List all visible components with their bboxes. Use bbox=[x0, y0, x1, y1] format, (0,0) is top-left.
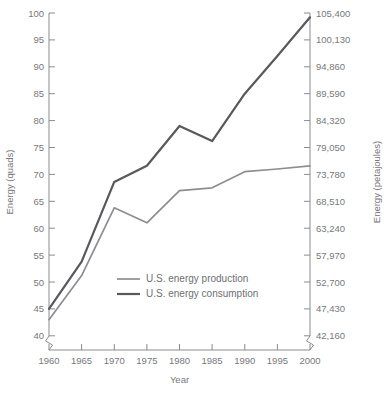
x-tick-label: 1985 bbox=[202, 355, 223, 366]
y-tick-label-left: 55 bbox=[33, 250, 44, 261]
y-tick-label-left: 95 bbox=[33, 34, 44, 45]
y-tick-label-left: 60 bbox=[33, 223, 44, 234]
y-axis-title-left: Energy (quads) bbox=[4, 150, 15, 215]
y-tick-label-left: 75 bbox=[33, 142, 44, 153]
y-tick-label-left: 85 bbox=[33, 88, 44, 99]
x-tick-label: 1965 bbox=[71, 355, 92, 366]
y-tick-label-right: 84,320 bbox=[316, 115, 345, 126]
legend: U.S. energy production U.S. energy consu… bbox=[117, 273, 258, 299]
y-tick-label-right: 73,780 bbox=[316, 169, 345, 180]
y-tick-label-left: 70 bbox=[33, 169, 44, 180]
legend-label-production: U.S. energy production bbox=[146, 273, 248, 284]
y-tick-label-left: 100 bbox=[28, 8, 44, 19]
y-tick-label-right: 105,400 bbox=[316, 8, 350, 19]
x-tick-label: 1990 bbox=[234, 355, 255, 366]
y-tick-label-left: 90 bbox=[33, 61, 44, 72]
x-tick-label: 1975 bbox=[136, 355, 157, 366]
y-tick-label-right: 52,700 bbox=[316, 277, 345, 288]
y-tick-label-right: 42,160 bbox=[316, 330, 345, 341]
chart-canvas: 100 95 90 85 80 75 70 65 60 55 50 45 40 bbox=[0, 0, 391, 395]
y-axis-left-ticks: 100 95 90 85 80 75 70 65 60 55 50 45 40 bbox=[28, 8, 55, 342]
x-tick-label: 2000 bbox=[299, 355, 320, 366]
x-tick-label: 1970 bbox=[104, 355, 125, 366]
y-axis-title-right: Energy (petajoules) bbox=[371, 141, 382, 223]
y-tick-label-right: 47,430 bbox=[316, 303, 345, 314]
y-tick-label-right: 79,050 bbox=[316, 142, 345, 153]
x-tick-label: 1980 bbox=[169, 355, 190, 366]
y-tick-label-right: 68,510 bbox=[316, 196, 345, 207]
y-tick-label-left: 40 bbox=[33, 330, 44, 341]
x-tick-label: 1960 bbox=[38, 355, 59, 366]
legend-label-consumption: U.S. energy consumption bbox=[146, 288, 258, 299]
series-line-consumption bbox=[49, 17, 310, 309]
y-tick-label-left: 45 bbox=[33, 303, 44, 314]
y-axis-right-ticks: 105,400 100,130 94,860 89,590 84,320 79,… bbox=[304, 8, 350, 342]
energy-line-chart: 100 95 90 85 80 75 70 65 60 55 50 45 40 bbox=[0, 0, 391, 395]
x-tick-label: 1995 bbox=[267, 355, 288, 366]
y-tick-label-left: 65 bbox=[33, 196, 44, 207]
y-tick-label-right: 94,860 bbox=[316, 61, 345, 72]
y-tick-label-left: 80 bbox=[33, 115, 44, 126]
y-tick-label-right: 100,130 bbox=[316, 34, 350, 45]
axes-group bbox=[46, 13, 314, 350]
y-tick-label-right: 57,970 bbox=[316, 250, 345, 261]
y-tick-label-right: 89,590 bbox=[316, 88, 345, 99]
x-axis-ticks: 1960 1965 1970 1975 1980 1985 1990 1995 … bbox=[38, 344, 320, 366]
y-tick-label-left: 50 bbox=[33, 277, 44, 288]
x-axis-title: Year bbox=[170, 374, 189, 385]
y-tick-label-right: 63,240 bbox=[316, 223, 345, 234]
